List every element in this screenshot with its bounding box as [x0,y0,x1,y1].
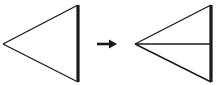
arrow-icon [97,40,117,49]
left-triangle-lower-edge [3,44,78,82]
left-triangle [3,5,78,82]
diagram-canvas [0,0,216,85]
right-triangle-lower-edge [135,44,211,82]
left-triangle-upper-edge [3,5,78,44]
right-triangle [135,5,211,82]
right-triangle-upper-edge [135,5,211,44]
